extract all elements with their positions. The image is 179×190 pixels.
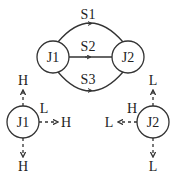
j1-right-label: H — [61, 115, 71, 130]
node-j1: J1 — [37, 41, 69, 73]
j2-left-port-label: H — [127, 101, 137, 116]
j2-left-label: L — [105, 115, 114, 130]
edge-s2-label: S2 — [81, 39, 96, 54]
payoff-diagram: S1 S2 S3 J1 J2 H J1 L H H L J2 H L L — [0, 0, 179, 190]
node-j2-label: J2 — [122, 50, 134, 65]
node-j2: J2 — [112, 41, 144, 73]
edge-s1-label: S1 — [81, 7, 96, 22]
j2-bottom-label: J2 — [147, 115, 159, 130]
bottom-left-group: H J1 L H H — [7, 73, 71, 174]
j2-up-label: L — [149, 73, 158, 88]
j1-right-port-label: L — [40, 101, 49, 116]
j1-down-label: H — [18, 159, 28, 174]
j1-bottom-label: J1 — [17, 115, 29, 130]
j1-up-label: H — [18, 73, 28, 88]
edge-s3-label: S3 — [81, 72, 96, 87]
j2-down-label: L — [149, 159, 158, 174]
node-j1-label: J1 — [47, 50, 59, 65]
bottom-right-group: L J2 H L L — [105, 73, 169, 174]
